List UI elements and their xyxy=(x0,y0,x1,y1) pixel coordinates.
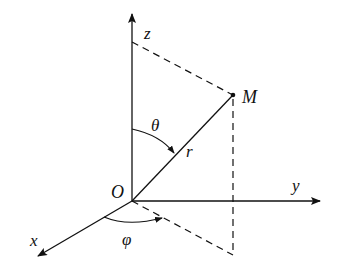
radius-line xyxy=(132,95,233,201)
x-axis-label: x xyxy=(29,231,38,250)
point-m-label: M xyxy=(241,87,258,107)
xy-projection-dashed xyxy=(132,201,233,255)
phi-label: φ xyxy=(122,230,131,249)
theta-label: θ xyxy=(151,116,159,135)
z-projection-dashed xyxy=(132,42,233,95)
phi-arc xyxy=(104,217,162,222)
radius-label: r xyxy=(186,142,193,161)
z-axis-label: z xyxy=(143,24,151,43)
x-axis xyxy=(38,201,132,256)
origin-label: O xyxy=(111,182,124,202)
spherical-coordinates-diagram: z y x O M r θ φ xyxy=(0,0,342,275)
y-axis-label: y xyxy=(290,176,300,195)
